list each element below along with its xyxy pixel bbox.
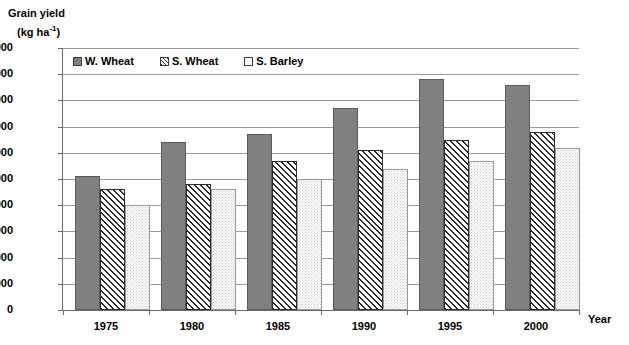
legend-item-s-wheat: S. Wheat (160, 55, 218, 67)
bar-group-1995 (419, 48, 494, 310)
bar-group-1985 (247, 48, 322, 310)
bar-s-wheat-1975 (100, 189, 125, 310)
bar-s-barley-1990 (383, 169, 408, 310)
bar-s-barley-2000 (555, 148, 580, 310)
x-tick-mark (579, 310, 580, 315)
legend-item-s-barley: S. Barley (244, 55, 303, 67)
bar-w-wheat-1975 (75, 176, 100, 310)
bar-w-wheat-1980 (161, 142, 186, 310)
x-tick-mark (407, 310, 408, 315)
bar-group-1990 (333, 48, 408, 310)
x-tick-mark (235, 310, 236, 315)
y-tick-label: 2,000 (0, 252, 13, 263)
x-tick-label-1995: 1995 (410, 320, 490, 332)
bar-w-wheat-1995 (419, 79, 444, 310)
x-axis-title: Year (588, 313, 611, 325)
y-axis-unit-prefix: (kg ha (17, 26, 49, 38)
y-axis-unit-exponent: -1 (49, 24, 56, 33)
y-tick-label: 4,000 (0, 199, 13, 210)
y-axis-title-line2: (kg ha-1) (8, 21, 65, 40)
legend-label: W. Wheat (85, 55, 134, 67)
legend-item-w-wheat: W. Wheat (73, 55, 134, 67)
bar-s-wheat-1985 (272, 161, 297, 310)
legend-label: S. Wheat (172, 55, 218, 67)
legend-swatch-icon (160, 57, 169, 66)
x-tick-mark (63, 310, 64, 315)
bar-group-1980 (161, 48, 236, 310)
bar-s-barley-1980 (211, 189, 236, 310)
bar-s-wheat-1980 (186, 184, 211, 310)
x-tick-mark (149, 310, 150, 315)
y-tick-label: 7,000 (0, 121, 13, 132)
bar-group-2000 (505, 48, 580, 310)
x-tick-label-1990: 1990 (324, 320, 404, 332)
grain-yield-bar-chart: Grain yield (kg ha-1) 10,0009,0008,0007,… (0, 0, 629, 345)
y-tick-label: 6,000 (0, 147, 13, 158)
x-tick-label-1975: 1975 (66, 320, 146, 332)
x-tick-mark (321, 310, 322, 315)
y-axis-unit-suffix: ) (57, 26, 61, 38)
y-tick-label: 5,000 (0, 173, 13, 184)
y-axis-title: Grain yield (kg ha-1) (8, 6, 65, 40)
bar-group-1975 (75, 48, 150, 310)
bar-groups (63, 48, 579, 310)
y-tick-label: 1,000 (0, 278, 13, 289)
bar-s-barley-1975 (125, 205, 150, 310)
bar-s-barley-1985 (297, 179, 322, 310)
y-axis-title-line1: Grain yield (8, 7, 65, 19)
y-tick-label: 3,000 (0, 225, 13, 236)
x-tick-label-2000: 2000 (496, 320, 576, 332)
x-tick-label-1985: 1985 (238, 320, 318, 332)
legend-label: S. Barley (256, 55, 303, 67)
bar-s-wheat-2000 (530, 132, 555, 310)
bar-w-wheat-1985 (247, 134, 272, 310)
y-tick-label: 0 (0, 304, 13, 315)
legend: W. WheatS. WheatS. Barley (73, 55, 303, 67)
bar-s-barley-1995 (469, 161, 494, 310)
bar-s-wheat-1995 (444, 140, 469, 310)
y-tick-label: 9,000 (0, 68, 13, 79)
y-tick-label: 10,000 (0, 42, 13, 53)
legend-swatch-icon (73, 57, 82, 66)
y-tick-label: 8,000 (0, 94, 13, 105)
plot-area: 10,0009,0008,0007,0006,0005,0004,0003,00… (62, 48, 579, 311)
bar-s-wheat-1990 (358, 150, 383, 310)
x-tick-label-1980: 1980 (152, 320, 232, 332)
bar-w-wheat-1990 (333, 108, 358, 310)
bar-w-wheat-2000 (505, 85, 530, 310)
legend-swatch-icon (244, 57, 253, 66)
x-tick-mark (493, 310, 494, 315)
